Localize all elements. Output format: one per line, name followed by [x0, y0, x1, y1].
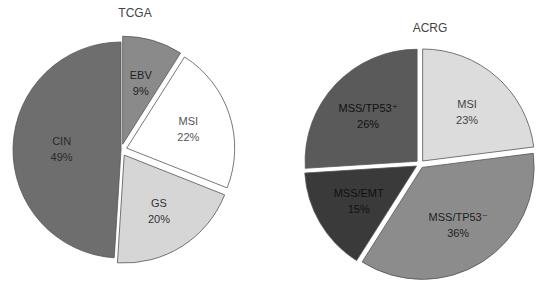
- chart-title-acrg: ACRG: [413, 21, 448, 35]
- slice-category-label: MSS/TP53⁻: [429, 211, 488, 223]
- slice-category-label: MSI: [179, 115, 199, 127]
- slice-category-label: GS: [151, 197, 167, 209]
- pie-slice-cin: [13, 42, 121, 258]
- slice-percent-label: 23%: [456, 114, 478, 126]
- slice-percent-label: 20%: [148, 213, 170, 225]
- slice-percent-label: 26%: [357, 118, 379, 130]
- pie-slices: [305, 49, 534, 279]
- pie-chart-acrg: ACRG MSI23%MSS/TP53⁻36%MSS/EMT15%MSS/TP5…: [305, 21, 534, 279]
- slice-category-label: MSS/EMT: [334, 187, 384, 199]
- figure: TCGA EBV9%MSI22%GS20%CIN49% ACRG MSI23%M…: [0, 0, 540, 288]
- chart-title-tcga: TCGA: [118, 6, 151, 20]
- pie-slices: [13, 36, 235, 263]
- slice-percent-label: 15%: [348, 203, 370, 215]
- slice-percent-label: 49%: [51, 151, 73, 163]
- slice-percent-label: 22%: [177, 131, 199, 143]
- slice-category-label: MSI: [457, 98, 477, 110]
- slice-percent-label: 36%: [447, 227, 469, 239]
- slice-category-label: MSS/TP53⁺: [339, 102, 398, 114]
- pie-chart-tcga: TCGA EBV9%MSI22%GS20%CIN49%: [13, 6, 235, 263]
- slice-percent-label: 9%: [133, 85, 149, 97]
- slice-category-label: EBV: [130, 69, 153, 81]
- slice-category-label: CIN: [52, 135, 71, 147]
- pie-slice-msi: [423, 49, 534, 161]
